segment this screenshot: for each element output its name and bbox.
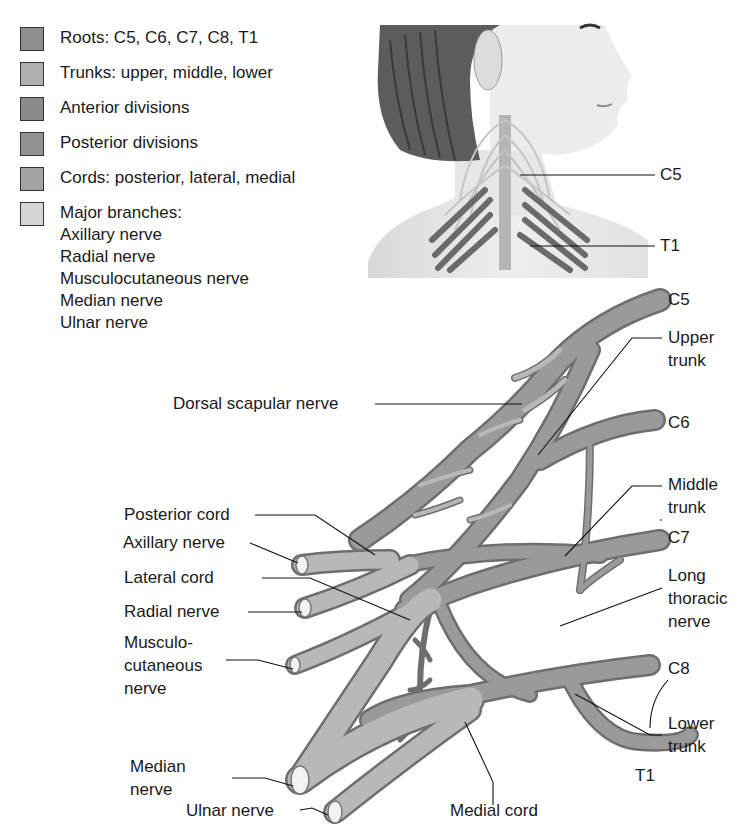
root-label-c7: C7 — [668, 527, 690, 549]
label-lower-trunk-1: Lower — [668, 713, 714, 735]
label-medial-cord: Medial cord — [450, 800, 538, 822]
label-median-nerve-2: nerve — [130, 779, 173, 801]
label-long-thoracic-3: nerve — [668, 611, 711, 633]
label-long-thoracic-1: Long — [668, 565, 706, 587]
label-upper-trunk-2: trunk — [668, 350, 706, 372]
label-musculocutaneous-3: nerve — [124, 678, 167, 700]
inset-label-t1: T1 — [660, 235, 680, 257]
label-ulnar-nerve: Ulnar nerve — [186, 800, 274, 822]
brachial-plexus — [290, 300, 690, 823]
label-median-nerve-1: Median — [130, 756, 186, 778]
label-lower-trunk-2: trunk — [668, 736, 706, 758]
label-axillary-nerve: Axillary nerve — [123, 532, 225, 554]
ear — [474, 30, 502, 90]
inset-illustration — [0, 0, 754, 839]
root-label-t1: T1 — [635, 765, 655, 787]
label-upper-trunk-1: Upper — [668, 327, 714, 349]
label-musculocutaneous-1: Musculo- — [124, 632, 193, 654]
label-dorsal-scapular: Dorsal scapular nerve — [173, 393, 338, 415]
root-label-c8: C8 — [668, 658, 690, 680]
label-radial-nerve: Radial nerve — [124, 601, 219, 623]
inset-label-c5: C5 — [660, 164, 682, 186]
label-long-thoracic-2: thoracic — [668, 588, 728, 610]
label-middle-trunk-1: Middle — [668, 474, 718, 496]
label-lateral-cord: Lateral cord — [124, 567, 214, 589]
root-label-c5: C5 — [668, 289, 690, 311]
label-middle-trunk-2: trunk — [668, 497, 706, 519]
face — [490, 25, 632, 155]
label-posterior-cord: Posterior cord — [124, 504, 230, 526]
root-label-c6: C6 — [668, 412, 690, 434]
label-musculocutaneous-2: cutaneous — [124, 655, 202, 677]
